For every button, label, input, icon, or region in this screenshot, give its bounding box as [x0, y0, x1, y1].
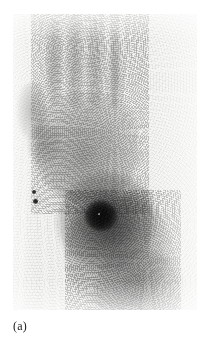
film-grain-overlay	[13, 14, 197, 310]
marker-dot-upper	[32, 190, 36, 194]
count-speckle-forearm	[65, 190, 181, 310]
count-speckle-hand	[31, 14, 149, 214]
forearm-distal-tail	[95, 250, 181, 310]
hotspot-center-pixel	[98, 213, 100, 215]
finger-index-uptake	[46, 18, 63, 104]
figure-caption: (a)	[13, 320, 27, 332]
palm-metacarpal-uptake	[34, 92, 138, 202]
finger-middle-uptake	[66, 14, 84, 108]
finger-ring-uptake	[86, 17, 104, 109]
figure-panel-a: (a)	[0, 0, 213, 348]
hotspot-core	[85, 201, 117, 231]
distal-forearm-uptake	[66, 196, 170, 308]
finger-little-uptake	[107, 30, 123, 108]
thumb-uptake	[17, 82, 47, 140]
marker-dot-lower	[33, 199, 38, 204]
panel-vignette	[13, 14, 197, 310]
scintigram-image	[13, 14, 197, 310]
thumb-base-uptake	[27, 122, 61, 166]
hotspot-halo	[58, 172, 156, 270]
